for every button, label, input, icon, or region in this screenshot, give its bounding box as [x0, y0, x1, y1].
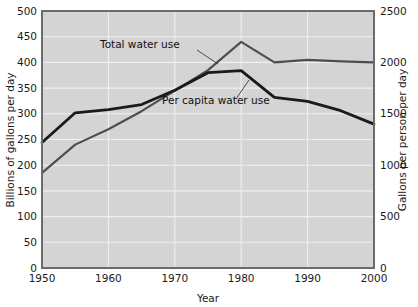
- annotation-label-0: Total water use: [99, 38, 180, 50]
- y-axis-left-title: Billions of gallons per day: [4, 72, 16, 207]
- y-tick-left-400: 400: [17, 56, 37, 68]
- y-tick-left-350: 350: [17, 82, 37, 94]
- chart-canvas: 050100150200250300350400450500 050010001…: [0, 0, 418, 307]
- y-tick-left-500: 500: [17, 5, 37, 17]
- x-tick-1980: 1980: [228, 272, 255, 284]
- y-tick-left-50: 50: [24, 236, 37, 248]
- x-tick-1950: 1950: [29, 272, 56, 284]
- water-use-line-chart: 050100150200250300350400450500 050010001…: [0, 0, 418, 307]
- y-tick-right-2000: 2000: [380, 56, 407, 68]
- y-tick-left-250: 250: [17, 133, 37, 145]
- y-tick-left-450: 450: [17, 30, 37, 42]
- x-tick-1960: 1960: [95, 272, 122, 284]
- y-tick-left-200: 200: [17, 159, 37, 171]
- x-tick-1970: 1970: [161, 272, 188, 284]
- x-axis-title: Year: [196, 292, 220, 304]
- x-tick-1990: 1990: [294, 272, 321, 284]
- y-tick-left-300: 300: [17, 107, 37, 119]
- y-axis-right-title: Gallons per person per day: [396, 69, 408, 212]
- y-tick-left-100: 100: [17, 210, 37, 222]
- y-tick-left-150: 150: [17, 185, 37, 197]
- annotation-label-1: Per capita water use: [162, 94, 270, 106]
- y-tick-right-2500: 2500: [380, 5, 407, 17]
- x-tick-2000: 2000: [361, 272, 388, 284]
